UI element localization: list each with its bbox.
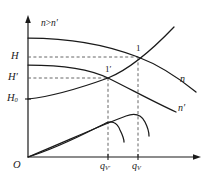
H-zero-base: H bbox=[7, 92, 15, 103]
pump-characteristic-figure: n>n′ H H′ H0 O qV′ qV n n′ 1 1′ bbox=[0, 0, 208, 183]
head-curve-n bbox=[28, 38, 196, 92]
condition-n-prime: n′ bbox=[51, 18, 58, 28]
operating-point-label-1: 1 bbox=[136, 44, 141, 53]
reference-lines-group bbox=[28, 57, 138, 157]
y-tick-label-H-prime: H′ bbox=[8, 72, 18, 83]
diagram-canvas bbox=[0, 0, 208, 183]
curves-group bbox=[28, 27, 196, 157]
operating-point-label-1-prime: 1′ bbox=[105, 65, 111, 74]
H-zero-subscript: 0 bbox=[15, 96, 18, 103]
qv-subscript: V bbox=[137, 164, 141, 171]
x-tick-label-qv: qV bbox=[132, 161, 141, 172]
efficiency-curve-n-prime bbox=[28, 122, 124, 157]
curve-label-n-prime: n′ bbox=[178, 103, 185, 113]
y-tick-label-H-zero: H0 bbox=[7, 93, 18, 104]
origin-label: O bbox=[13, 160, 21, 171]
x-axis-arrowhead bbox=[193, 154, 201, 160]
x-tick-label-qv-prime: qV′ bbox=[100, 161, 110, 172]
y-axis-arrowhead bbox=[25, 15, 31, 23]
qv-prime-subscript: V′ bbox=[105, 164, 110, 171]
curve-label-n: n bbox=[180, 74, 185, 84]
axes-group bbox=[25, 15, 201, 160]
head-curve-n-prime bbox=[28, 65, 176, 112]
y-tick-label-H: H bbox=[11, 51, 19, 62]
condition-label: n>n′ bbox=[41, 19, 58, 29]
